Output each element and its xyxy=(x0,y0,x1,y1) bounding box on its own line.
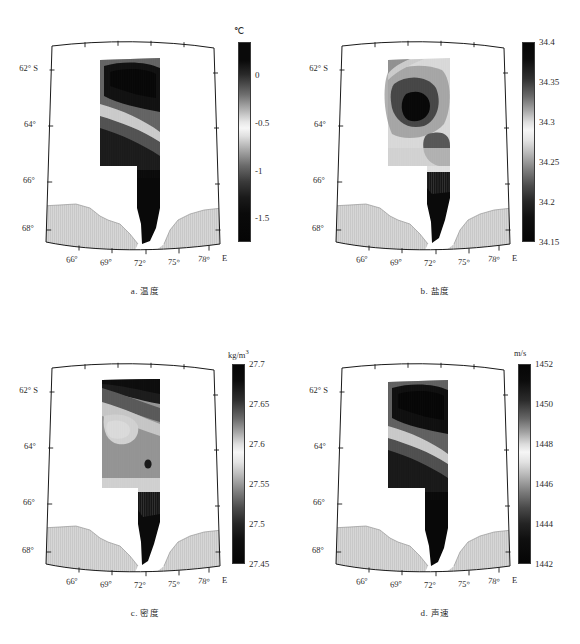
caption-d-prefix: d. xyxy=(420,608,428,618)
colorbar-tick-b-5: 34.15 xyxy=(539,237,559,247)
xtick-suffix-E-value: E xyxy=(222,253,227,263)
xtick-label-78-d: 78° xyxy=(487,575,500,586)
xtick-label-66-d: 66° xyxy=(355,575,368,586)
colorbar-tick-a-0: 0 xyxy=(255,70,260,80)
xtick-suffix-E-value-c: E xyxy=(222,575,227,585)
xtick-label-75-b: 75° xyxy=(458,257,471,268)
xtick-suffix-E-c: E xyxy=(222,575,227,585)
colorbar-tick-d-1: 1450 xyxy=(535,399,553,409)
colorbar-tick-b-1: 34.35 xyxy=(539,77,559,87)
map-area-a: 62° S 64° 66° 68° 66° 69° 72° xyxy=(42,38,222,260)
ytick-label-64: 64° xyxy=(24,119,36,129)
colorbar-unit-c-text: kg/m3 xyxy=(228,350,249,360)
map-area-b: 62° S 64° 66° 68° 66° 69° 72° 75° xyxy=(332,38,512,260)
colorbar-ticklabels-c: 27.7 27.65 27.6 27.55 27.5 27.45 xyxy=(249,364,289,564)
xtick-value-78: 78° xyxy=(197,253,210,264)
xtick-value-78-c: 78° xyxy=(197,575,210,586)
xtick-value-72-b: 72° xyxy=(424,258,436,268)
xtick-value-66-c: 66° xyxy=(65,575,78,586)
colorbar-tick-a-3: -1.5 xyxy=(255,213,269,223)
ytick-value-64: 64° xyxy=(24,119,36,129)
colorbar-tick-d-0: 1452 xyxy=(535,359,553,369)
ytick-value-66-d: 66° xyxy=(313,497,325,507)
ytick-value-68-c: 68° xyxy=(22,545,34,555)
ytick-value-64-b: 64° xyxy=(314,119,326,129)
colorbar-tick-c-3: 27.55 xyxy=(249,479,269,489)
xtick-value-69-d: 69° xyxy=(390,579,403,590)
colorbar-tick-b-4: 34.2 xyxy=(539,197,555,207)
colorbar-tick-d-4: 1444 xyxy=(535,519,553,529)
xtick-label-66: 66° xyxy=(65,253,78,264)
caption-d-text: 声速 xyxy=(431,608,450,618)
caption-c-prefix: c. xyxy=(131,608,138,618)
colorbar-gradient-b xyxy=(522,42,535,242)
ytick-label-62: 62° S xyxy=(19,63,38,73)
ytick-label-68-d: 68° xyxy=(312,545,324,555)
colorbar-gradient-d xyxy=(518,364,531,564)
ytick-label-68-b: 68° xyxy=(312,223,324,233)
xtick-value-66-d: 66° xyxy=(355,575,368,586)
xtick-label-75-d: 75° xyxy=(458,579,471,590)
panel-c-data-layer xyxy=(42,360,222,582)
xtick-label-72-c: 72° xyxy=(134,580,146,590)
ytick-value-64-d: 64° xyxy=(314,441,326,451)
panel-b: 62° S 64° 66° 68° 66° 69° 72° 75° xyxy=(290,0,580,322)
xtick-suffix-E-b: E xyxy=(512,253,517,263)
ytick-label-62-b: 62° S xyxy=(309,63,328,73)
caption-c-text: 密度 xyxy=(140,608,159,618)
colorbar-gradient-a xyxy=(238,42,251,242)
colorbar-tick-c-1: 27.65 xyxy=(249,399,269,409)
caption-b: b. 盐度 xyxy=(290,284,580,296)
ytick-label-66-c: 66° xyxy=(23,497,35,507)
xtick-label-66-c: 66° xyxy=(65,575,78,586)
map-area-c: 62° S 64° 66° 68° 66° 69° 72° 75° xyxy=(42,360,222,582)
ytick-label-64-c: 64° xyxy=(24,441,36,451)
caption-b-text: 盐度 xyxy=(431,286,450,296)
map-area-d: 62° S 64° 66° 68° 66° 69° 72° 75° xyxy=(332,360,512,582)
xtick-label-75: 75° xyxy=(168,257,181,268)
xtick-label-69: 69° xyxy=(100,257,113,268)
ytick-suffix-S-b: S xyxy=(323,63,328,73)
caption-a-text: 温度 xyxy=(140,286,159,296)
xtick-value-72-d: 72° xyxy=(424,580,436,590)
colorbar-gradient-c xyxy=(232,364,245,564)
caption-b-prefix: b. xyxy=(420,286,428,296)
xtick-value-69-b: 69° xyxy=(390,257,403,268)
caption-a: a. 温度 xyxy=(0,284,290,296)
colorbar-unit-c: kg/m3 xyxy=(228,348,249,360)
xtick-label-78-b: 78° xyxy=(487,253,500,264)
xtick-value-69-c: 69° xyxy=(100,579,113,590)
colorbar-tick-b-0: 34.4 xyxy=(539,37,555,47)
ytick-label-68-c: 68° xyxy=(22,545,34,555)
ytick-label-68: 68° xyxy=(22,223,34,233)
panel-a-data-layer xyxy=(42,38,222,260)
colorbar-tick-b-3: 34.25 xyxy=(539,157,559,167)
caption-a-prefix: a. xyxy=(131,286,138,296)
colorbar-tick-c-4: 27.5 xyxy=(249,519,265,529)
ytick-label-66: 66° xyxy=(23,175,35,185)
caption-d: d. 声速 xyxy=(290,606,580,618)
panel-d: 62° S 64° 66° 68° 66° 69° 72° 75° xyxy=(290,322,580,644)
ytick-value-68-b: 68° xyxy=(312,223,324,233)
xtick-value-75-b: 75° xyxy=(458,257,471,268)
xtick-value-72: 72° xyxy=(134,258,146,268)
colorbar-tick-a-2: -1 xyxy=(255,166,263,176)
xtick-value-78-d: 78° xyxy=(487,575,500,586)
ytick-value-66-c: 66° xyxy=(23,497,35,507)
colorbar-tick-b-2: 34.3 xyxy=(539,117,555,127)
panel-a: 62° S 64° 66° 68° 66° 69° 72° xyxy=(0,0,290,322)
ytick-value-68-d: 68° xyxy=(312,545,324,555)
xtick-value-72-c: 72° xyxy=(134,580,146,590)
panel-d-data-layer xyxy=(332,360,512,582)
xtick-label-66-b: 66° xyxy=(355,253,368,264)
xtick-label-72-b: 72° xyxy=(424,258,436,268)
xtick-value-69: 69° xyxy=(100,257,113,268)
ytick-suffix-S-c: S xyxy=(33,385,38,395)
ytick-value-62-c: 62° xyxy=(19,385,31,395)
ytick-value-66: 66° xyxy=(23,175,35,185)
ytick-value-62-d: 62° xyxy=(309,385,321,395)
colorbar-tick-d-5: 1442 xyxy=(535,559,553,569)
xtick-value-75-c: 75° xyxy=(168,579,181,590)
xtick-label-75-c: 75° xyxy=(168,579,181,590)
xtick-value-66: 66° xyxy=(65,253,78,264)
